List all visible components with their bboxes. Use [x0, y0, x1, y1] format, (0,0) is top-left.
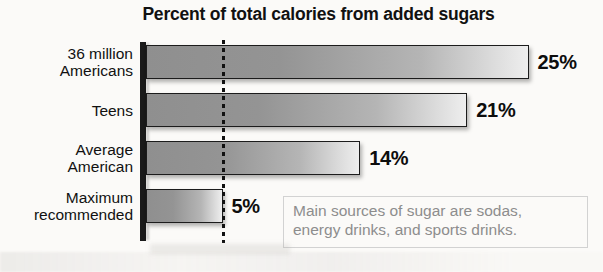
- annotation-text: Main sources of sugar are sodas, energy …: [293, 201, 579, 239]
- category-label: Teens: [5, 102, 133, 119]
- bar-segment: [146, 141, 360, 175]
- value-label: 25%: [538, 51, 577, 74]
- reference-line-dotted: [222, 40, 225, 243]
- bar-segment: [146, 93, 467, 127]
- category-label: Maximum recommended: [5, 189, 133, 223]
- value-label: 5%: [232, 195, 260, 218]
- scan-artifact: [0, 252, 603, 272]
- category-label: Average American: [5, 141, 133, 175]
- bar-segment: [146, 189, 223, 223]
- category-label: 36 million Americans: [5, 45, 133, 79]
- annotation-box: Main sources of sugar are sodas, energy …: [283, 196, 588, 248]
- bar-row: 36 million Americans 25%: [0, 45, 603, 79]
- value-label: 14%: [369, 147, 408, 170]
- chart-title: Percent of total calories from added sug…: [0, 4, 603, 25]
- bar-segment: [146, 45, 529, 79]
- bar-row: Teens 21%: [0, 93, 603, 127]
- scan-artifact: [150, 244, 290, 254]
- value-label: 21%: [476, 99, 515, 122]
- bar-row: Average American 14%: [0, 141, 603, 175]
- chart-container: Percent of total calories from added sug…: [0, 0, 603, 272]
